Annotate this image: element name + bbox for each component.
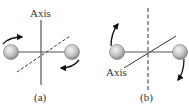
sphere-left bbox=[110, 45, 125, 60]
sphere-right bbox=[65, 45, 80, 60]
caption-a: (a) bbox=[34, 91, 46, 103]
sphere-left bbox=[4, 45, 19, 60]
rotation-arrow-down bbox=[178, 59, 184, 80]
dashed-line bbox=[17, 36, 70, 72]
rotation-arrow-top bbox=[3, 37, 22, 44]
rotation-arrow-bottom bbox=[61, 60, 79, 68]
rotation-arrow-up bbox=[111, 24, 118, 46]
rotation-axes-diagram bbox=[0, 0, 189, 111]
axis-label-b: Axis bbox=[106, 66, 127, 78]
caption-b: (b) bbox=[140, 91, 153, 103]
panel-a bbox=[3, 20, 80, 85]
axis-label-a: Axis bbox=[30, 7, 51, 19]
sphere-right bbox=[173, 45, 188, 60]
